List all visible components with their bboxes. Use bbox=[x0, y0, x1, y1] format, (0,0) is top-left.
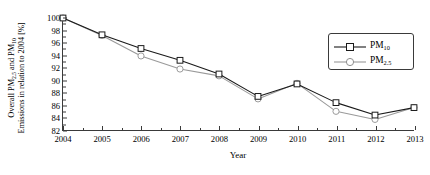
y-tick-mark-minor bbox=[63, 36, 66, 37]
y-tick-mark bbox=[63, 18, 67, 19]
y-tick-label: 100 bbox=[47, 13, 60, 23]
y-tick-label: 96 bbox=[51, 38, 60, 48]
x-tick-label: 2009 bbox=[250, 134, 267, 144]
x-tick-label: 2005 bbox=[94, 134, 111, 144]
x-tick-mark bbox=[298, 126, 299, 130]
y-tick-label: 90 bbox=[51, 76, 60, 86]
x-tick-mark-minor bbox=[161, 128, 162, 131]
y-tick-mark bbox=[63, 118, 67, 119]
y-tick-mark-minor bbox=[63, 87, 66, 88]
legend-label-pm10: PM10 bbox=[370, 40, 390, 50]
y-tick-label: 92 bbox=[51, 63, 60, 73]
x-axis-title: Year bbox=[62, 150, 414, 160]
data-point-marker bbox=[372, 112, 378, 118]
x-tick-label: 2007 bbox=[172, 134, 189, 144]
x-tick-mark bbox=[102, 126, 103, 130]
legend-item-pm10: PM10 bbox=[333, 37, 409, 52]
x-tick-label: 2006 bbox=[133, 134, 150, 144]
y-tick-mark bbox=[63, 80, 67, 81]
y-tick-mark-minor bbox=[63, 112, 66, 113]
y-tick-mark bbox=[63, 55, 67, 56]
data-point-marker bbox=[216, 71, 222, 77]
y-tick-mark bbox=[63, 93, 67, 94]
y-tick-mark-minor bbox=[63, 24, 66, 25]
x-tick-mark-minor bbox=[278, 128, 279, 131]
y-tick-mark bbox=[63, 30, 67, 31]
legend-swatch-pm10 bbox=[333, 39, 367, 51]
x-tick-mark-minor bbox=[239, 128, 240, 131]
y-tick-mark bbox=[63, 131, 67, 132]
x-tick-mark-minor bbox=[200, 128, 201, 131]
y-tick-label: 98 bbox=[51, 26, 60, 36]
data-point-marker bbox=[294, 81, 300, 87]
y-tick-label: 86 bbox=[51, 101, 60, 111]
legend-label-pm25: PM2.5 bbox=[370, 55, 392, 65]
y-axis-title: Overall PM2.5 and PM10 Emissions in rela… bbox=[0, 0, 44, 175]
y-tick-label: 84 bbox=[51, 113, 60, 123]
y-tick-mark bbox=[63, 43, 67, 44]
x-tick-mark-minor bbox=[122, 128, 123, 131]
data-point-marker bbox=[99, 32, 105, 38]
y-axis-title-line-1: Overall PM2.5 and PM10 bbox=[7, 5, 17, 151]
y-tick-mark-minor bbox=[63, 74, 66, 75]
data-point-marker bbox=[333, 108, 339, 114]
x-tick-mark bbox=[337, 126, 338, 130]
x-tick-mark bbox=[141, 126, 142, 130]
x-tick-mark bbox=[180, 126, 181, 130]
x-tick-mark bbox=[63, 126, 64, 130]
x-tick-mark bbox=[259, 126, 260, 130]
x-tick-mark-minor bbox=[395, 128, 396, 131]
x-tick-mark bbox=[376, 126, 377, 130]
x-tick-mark-minor bbox=[83, 128, 84, 131]
data-point-marker bbox=[138, 53, 144, 59]
chart-figure: Overall PM2.5 and PM10 Emissions in rela… bbox=[0, 0, 430, 175]
y-axis-title-line-2: Emissions in relation to 2004 [%] bbox=[17, 5, 27, 151]
x-tick-label: 2004 bbox=[54, 134, 71, 144]
data-point-marker bbox=[333, 100, 339, 106]
x-tick-mark bbox=[415, 126, 416, 130]
x-tick-label: 2010 bbox=[289, 134, 306, 144]
x-tick-label: 2013 bbox=[406, 134, 423, 144]
data-point-marker bbox=[411, 105, 417, 111]
x-tick-label: 2012 bbox=[367, 134, 384, 144]
legend-swatch-pm25 bbox=[333, 54, 367, 66]
x-tick-label: 2011 bbox=[328, 134, 345, 144]
y-tick-label: 88 bbox=[51, 88, 60, 98]
x-tick-mark-minor bbox=[317, 128, 318, 131]
y-tick-mark-minor bbox=[63, 49, 66, 50]
y-tick-mark bbox=[63, 68, 67, 69]
legend-item-pm25: PM2.5 bbox=[333, 52, 409, 67]
chart-legend: PM10 PM2.5 bbox=[328, 33, 414, 70]
y-tick-mark-minor bbox=[63, 99, 66, 100]
y-tick-label: 94 bbox=[51, 51, 60, 61]
y-tick-mark bbox=[63, 105, 67, 106]
x-tick-label: 2008 bbox=[211, 134, 228, 144]
data-point-marker bbox=[177, 57, 183, 63]
y-tick-mark-minor bbox=[63, 61, 66, 62]
data-point-marker bbox=[177, 66, 183, 72]
x-tick-mark bbox=[219, 126, 220, 130]
data-point-marker bbox=[138, 46, 144, 52]
x-tick-mark-minor bbox=[356, 128, 357, 131]
data-point-marker bbox=[255, 94, 261, 100]
